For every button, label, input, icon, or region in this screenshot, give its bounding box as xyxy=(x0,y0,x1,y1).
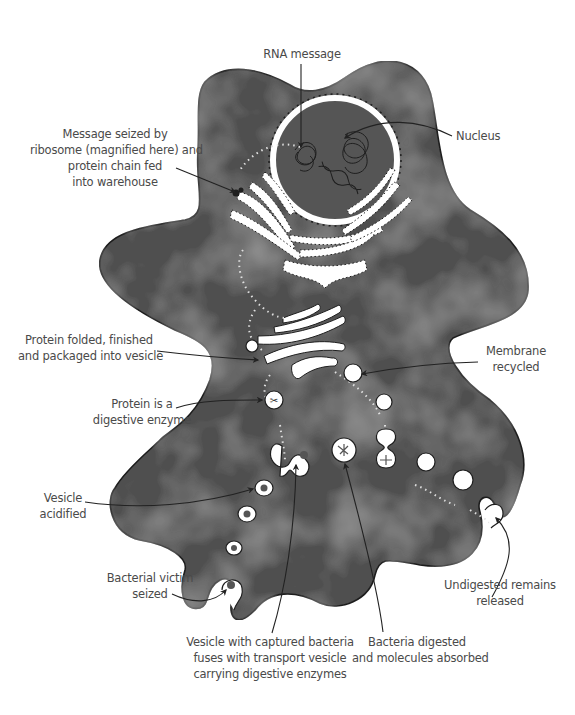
digesting-vesicle xyxy=(332,438,356,462)
label-rna-message: RNA message xyxy=(252,46,352,62)
label-bacteria-digested: Bacteria digested and molecules absorbed xyxy=(352,634,482,666)
cell-diagram: ✂ xyxy=(0,0,575,715)
label-undigested-remains: Undigested remains released xyxy=(438,577,562,609)
acidified-vesicle-2 xyxy=(238,506,256,522)
label-digestive-enzyme: Protein is a digestive enzyme xyxy=(92,396,192,428)
residual-vesicle-1 xyxy=(417,453,435,471)
residual-vesicle-2 xyxy=(453,470,473,490)
label-vesicle-acidified: Vesicle acidified xyxy=(38,490,88,522)
exocytosis-pocket xyxy=(485,504,503,528)
enzyme-vesicle: ✂ xyxy=(265,391,283,409)
vesicle-small-a xyxy=(246,340,258,352)
label-membrane-recycled: Membrane recycled xyxy=(476,343,556,375)
label-vesicle-fuses: Vesicle with captured bacteria fuses wit… xyxy=(180,634,360,682)
svg-text:✂: ✂ xyxy=(270,395,278,406)
recycled-membrane-vesicle-2 xyxy=(376,394,392,410)
label-protein-folded: Protein folded, finished and packaged in… xyxy=(18,332,160,364)
label-ribosome: Message seized by ribosome (magnified he… xyxy=(30,126,200,190)
recycled-membrane-vesicle-1 xyxy=(344,364,362,382)
label-bacterial-victim: Bacterial victim seized xyxy=(105,570,195,602)
acidified-vesicle-1 xyxy=(255,480,273,496)
acidified-vesicle-3 xyxy=(226,541,242,555)
label-nucleus: Nucleus xyxy=(456,128,516,144)
